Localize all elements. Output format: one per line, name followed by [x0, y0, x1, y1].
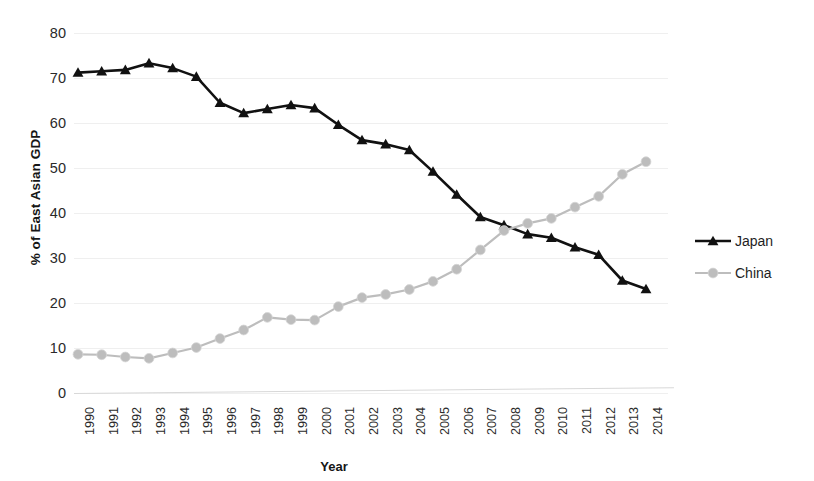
x-tick-label: 2010	[557, 407, 570, 459]
plot-area	[74, 27, 668, 399]
x-tick-label: 1994	[179, 407, 192, 459]
x-tick-label: 1998	[273, 407, 286, 459]
x-tick-label: 2011	[581, 407, 594, 459]
data-point-marker	[594, 191, 604, 201]
data-point-marker	[546, 214, 556, 224]
y-tick-label: 70	[26, 71, 66, 86]
data-point-marker	[404, 285, 414, 295]
y-tick-label: 50	[26, 161, 66, 176]
line-chart: % of East Asian GDP 01020304050607080 19…	[0, 0, 814, 481]
data-point-marker	[333, 302, 343, 312]
series-line	[78, 63, 646, 289]
data-point-marker	[428, 277, 438, 287]
data-point-marker	[262, 313, 272, 323]
x-tick-label: 2012	[605, 407, 618, 459]
x-tick-label: 1993	[155, 407, 168, 459]
data-point-marker	[286, 315, 296, 325]
y-tick-label: 30	[26, 251, 66, 266]
x-tick-label: 1992	[131, 407, 144, 459]
x-tick-label: 1999	[297, 407, 310, 459]
data-point-marker	[120, 352, 130, 362]
data-point-marker	[191, 343, 201, 353]
data-point-marker	[239, 325, 249, 335]
data-point-marker	[97, 350, 107, 360]
x-tick-label: 1990	[84, 407, 97, 459]
y-tick-label: 80	[26, 26, 66, 41]
legend-label: Japan	[735, 234, 773, 248]
y-tick-label: 20	[26, 296, 66, 311]
x-tick-label: 1991	[108, 407, 121, 459]
data-point-marker	[310, 315, 320, 325]
x-tick-label: 2003	[392, 407, 405, 459]
x-tick-label: 1997	[250, 407, 263, 459]
data-point-marker	[523, 218, 533, 228]
y-axis-tick-labels: 01020304050607080	[26, 0, 66, 481]
x-tick-label: 1996	[226, 407, 239, 459]
data-point-marker	[357, 293, 367, 303]
data-point-marker	[73, 349, 83, 359]
data-point-marker	[168, 348, 178, 358]
x-tick-label: 2014	[652, 407, 665, 459]
x-axis-title: Year	[0, 459, 814, 474]
data-point-marker	[475, 245, 485, 255]
series-china	[73, 157, 651, 363]
data-point-marker	[215, 334, 225, 344]
data-point-marker	[499, 226, 509, 236]
data-point-marker	[617, 169, 627, 179]
x-axis-tick-labels: 1990199119921993199419951996199719981999…	[74, 404, 668, 456]
data-point-marker	[452, 264, 462, 274]
data-point-marker	[381, 290, 391, 300]
y-tick-label: 40	[26, 206, 66, 221]
y-tick-label: 10	[26, 341, 66, 356]
chart-legend: JapanChina	[694, 225, 809, 289]
gray-line-circle-marker	[694, 266, 732, 280]
x-tick-label: 2008	[510, 407, 523, 459]
data-series-layer	[74, 27, 668, 399]
data-point-marker	[570, 202, 580, 212]
x-tick-label: 2005	[439, 407, 452, 459]
y-tick-label: 60	[26, 116, 66, 131]
black-line-triangle-marker	[694, 234, 732, 248]
x-tick-label: 2013	[628, 407, 641, 459]
series-japan	[73, 58, 652, 293]
data-point-marker	[641, 157, 651, 167]
y-tick-label: 0	[26, 386, 66, 401]
x-tick-label: 2006	[463, 407, 476, 459]
x-tick-label: 2004	[415, 407, 428, 459]
legend-label: China	[735, 266, 772, 280]
data-point-marker	[144, 353, 154, 363]
series-line	[78, 162, 646, 359]
x-tick-label: 2009	[534, 407, 547, 459]
legend-item-japan[interactable]: Japan	[694, 225, 809, 257]
x-tick-label: 2007	[486, 407, 499, 459]
x-tick-label: 1995	[202, 407, 215, 459]
x-tick-label: 2000	[321, 407, 334, 459]
x-tick-label: 2002	[368, 407, 381, 459]
legend-item-china[interactable]: China	[694, 257, 809, 289]
x-tick-label: 2001	[344, 407, 357, 459]
